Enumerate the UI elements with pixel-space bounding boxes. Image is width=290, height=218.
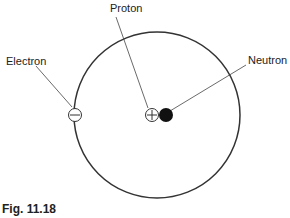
proton-particle <box>146 109 159 122</box>
proton-label: Proton <box>110 2 142 14</box>
figure-caption: Fig. 11.18 <box>2 202 56 216</box>
electron-leader-line <box>36 66 72 107</box>
electron-label: Electron <box>6 55 46 67</box>
neutron-particle <box>159 108 173 122</box>
atom-diagram <box>0 0 290 218</box>
neutron-leader-line <box>170 65 246 111</box>
electron-particle <box>69 109 82 122</box>
proton-leader-line <box>116 17 148 108</box>
neutron-label: Neutron <box>248 54 287 66</box>
